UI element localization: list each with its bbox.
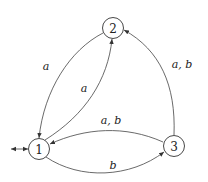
- state-3: 3: [164, 136, 185, 157]
- edge-3-to-2: [124, 30, 174, 135]
- edge-3-to-1-label: a, b: [101, 114, 122, 127]
- edge-3-to-1: [50, 131, 163, 144]
- edge-3-to-2-label: a, b: [172, 58, 193, 71]
- automaton-diagram: 1 2 3 a a a, b a, b b: [0, 0, 208, 182]
- edge-1-to-3: [46, 152, 164, 173]
- edge-2-to-1: [39, 33, 103, 138]
- state-1-label: 1: [35, 143, 43, 157]
- edge-1-to-3-label: b: [109, 159, 116, 172]
- edge-1-to-2-label: a: [81, 82, 88, 95]
- state-2-label: 2: [109, 22, 117, 36]
- edge-2-to-1-label: a: [43, 60, 50, 73]
- state-2: 2: [103, 18, 124, 39]
- state-1: 1: [29, 139, 50, 160]
- state-3-label: 3: [170, 140, 178, 154]
